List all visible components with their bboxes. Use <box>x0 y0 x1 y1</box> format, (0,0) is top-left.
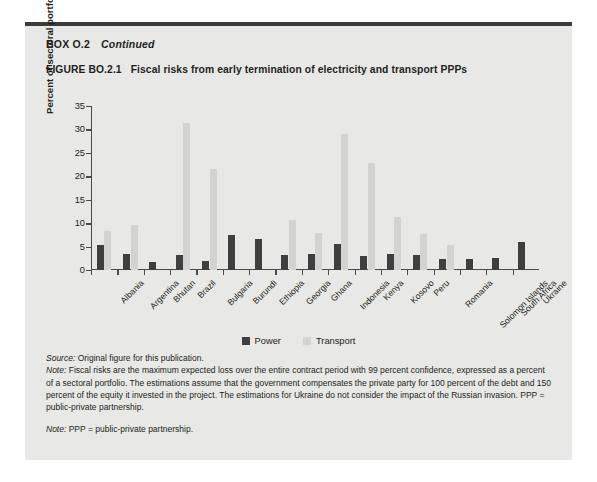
x-axis-tick <box>275 270 276 275</box>
figure-notes: Source: Original figure for this publica… <box>46 352 551 435</box>
secondary-note: Note: PPP = public-private partnership. <box>46 423 551 435</box>
bar-power <box>466 259 473 270</box>
legend-item: Transport <box>303 336 355 346</box>
x-axis-tick <box>302 270 303 275</box>
x-axis-tick <box>328 270 329 275</box>
y-axis-tick-label: 10 <box>75 218 85 228</box>
figure-title: Fiscal risks from early termination of e… <box>131 64 468 75</box>
bar-transport <box>210 169 217 270</box>
y-axis-tick <box>86 106 91 107</box>
bar-power <box>176 255 183 270</box>
y-axis-tick-label: 30 <box>75 124 85 134</box>
y-axis-tick-label: 5 <box>80 242 85 252</box>
box-top-rule <box>25 22 572 26</box>
note2-label: Note: <box>46 424 66 434</box>
bar-transport <box>183 123 190 270</box>
x-axis-tick <box>91 270 92 275</box>
bar-power <box>360 256 367 270</box>
y-axis-label: Percent of sectoral portfolio <box>44 0 55 120</box>
x-axis-tick-label: Georgia <box>304 278 333 307</box>
bar-power <box>255 239 262 270</box>
x-axis-tick-label: Bulgaria <box>225 278 254 307</box>
y-axis-tick-label: 15 <box>75 195 85 205</box>
bar-transport <box>341 134 348 270</box>
x-axis-tick <box>170 270 171 275</box>
y-axis-tick <box>86 247 91 248</box>
x-axis-tick-label: Peru <box>432 278 452 298</box>
figure-heading: FIGURE BO.2.1Fiscal risks from early ter… <box>46 64 467 75</box>
bar-power <box>123 254 130 270</box>
legend-item: Power <box>242 336 281 346</box>
bar-transport <box>131 225 138 270</box>
bar-transport <box>104 231 111 270</box>
bar-transport <box>420 234 427 270</box>
y-axis-tick <box>86 200 91 201</box>
bar-transport <box>368 163 375 270</box>
x-axis-tick <box>355 270 356 275</box>
bar-power <box>439 259 446 270</box>
chart-legend: PowerTransport <box>46 336 551 346</box>
main-note: Note: Fiscal risks are the maximum expec… <box>46 364 551 413</box>
box-continued-label: Continued <box>101 38 155 50</box>
x-axis-tick-label: Romania <box>463 278 494 309</box>
note2-text: PPP = public-private partnership. <box>66 424 193 434</box>
bar-power <box>413 255 420 270</box>
x-axis-tick <box>117 270 118 275</box>
source-text: Original figure for this publication. <box>75 353 204 363</box>
y-axis-tick <box>86 223 91 224</box>
x-axis-tick <box>249 270 250 275</box>
bar-power <box>281 255 288 270</box>
x-axis-tick <box>513 270 514 275</box>
legend-label: Power <box>255 336 281 346</box>
y-axis-tick-label: 20 <box>75 171 85 181</box>
y-axis-tick <box>86 153 91 154</box>
bar-power <box>149 262 156 270</box>
x-axis-tick <box>381 270 382 275</box>
y-axis-line <box>91 106 92 270</box>
x-axis-tick <box>144 270 145 275</box>
bar-power <box>518 242 525 270</box>
notes-spacer <box>46 414 551 423</box>
x-axis-tick <box>223 270 224 275</box>
x-axis-tick <box>434 270 435 275</box>
bar-power <box>334 244 341 270</box>
x-axis-tick-label: Brazil <box>196 278 218 300</box>
plot-area: 05101520253035AlbaniaArgentinaBhutanBraz… <box>91 106 539 270</box>
y-axis-tick-label: 25 <box>75 148 85 158</box>
x-axis-tick <box>407 270 408 275</box>
y-axis-tick <box>86 176 91 177</box>
figure-number: FIGURE BO.2.1 <box>46 64 122 75</box>
bar-chart: Percent of sectoral portfolio 0510152025… <box>46 84 551 374</box>
x-axis-tick-label: Burundi <box>251 278 279 306</box>
bar-power <box>97 245 104 270</box>
legend-swatch-icon <box>303 337 311 345</box>
y-axis-tick <box>86 129 91 130</box>
bar-transport <box>447 245 454 270</box>
box-container: BOX O.2Continued FIGURE BO.2.1Fiscal ris… <box>25 22 572 460</box>
bar-transport <box>289 220 296 270</box>
x-axis-tick-label: Albania <box>119 278 146 305</box>
source-label: Source: <box>46 353 75 363</box>
x-axis-tick <box>196 270 197 275</box>
x-axis-tick-label: Ghana <box>329 278 354 303</box>
bar-power <box>228 235 235 270</box>
note-label: Note: <box>46 365 66 375</box>
bar-transport <box>394 217 401 270</box>
bar-power <box>202 261 209 270</box>
x-axis-tick <box>460 270 461 275</box>
box-heading: BOX O.2Continued <box>46 38 155 50</box>
x-axis-tick <box>486 270 487 275</box>
bar-power <box>308 254 315 270</box>
y-axis-tick-label: 35 <box>75 101 85 111</box>
bar-power <box>387 254 394 270</box>
bar-power <box>492 258 499 270</box>
y-axis-tick-label: 0 <box>80 265 85 275</box>
x-axis-tick-label: Ethiopia <box>277 278 306 307</box>
source-note: Source: Original figure for this publica… <box>46 352 551 364</box>
legend-swatch-icon <box>242 337 250 345</box>
note-text: Fiscal risks are the maximum expected lo… <box>46 365 551 412</box>
legend-label: Transport <box>316 336 355 346</box>
bar-transport <box>315 233 322 270</box>
